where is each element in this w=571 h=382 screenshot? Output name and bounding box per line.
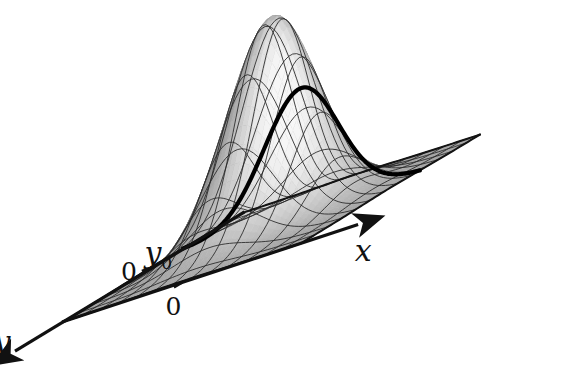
surface-shaded-faces: [64, 16, 480, 322]
figure-canvas: x y 0 0 y0: [0, 0, 571, 382]
surface-plot-svg: [0, 0, 571, 382]
